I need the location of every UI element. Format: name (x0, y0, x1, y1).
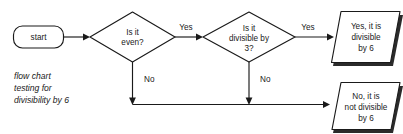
edge-even-yes-to-div3 (175, 34, 203, 41)
node-decision-even-line2: even? (121, 38, 144, 47)
edge-label-div3-yes: Yes (301, 23, 314, 32)
node-result-no-line3: by 6 (358, 114, 374, 123)
node-decision-div3-line2: divisible by (229, 34, 270, 43)
node-result-no-line1: No, it is (352, 92, 379, 101)
edge-div3-yes-to-result-yes (295, 34, 334, 41)
node-decision-divisible-by-3[interactable]: Is it divisible by 3? (203, 12, 295, 62)
node-start[interactable]: start (14, 26, 64, 48)
caption-line-1: flow chart (14, 71, 51, 81)
flowchart-diagram: start Is it even? Is it divisible by 3? … (0, 0, 403, 133)
edge-label-div3-no: No (260, 75, 271, 84)
node-result-no[interactable]: No, it is not divisible by 6 (332, 83, 403, 134)
caption-line-2: testing for (14, 83, 53, 93)
edge-merge-to-result-no (133, 101, 331, 108)
node-result-yes[interactable]: Yes, it is divisible by 6 (332, 12, 403, 67)
caption-line-3: divisibility by 6 (14, 95, 69, 105)
node-result-yes-line3: by 6 (358, 44, 374, 53)
edge-label-even-no: No (144, 75, 155, 84)
diagram-caption: flow chart testing for divisibility by 6 (14, 71, 69, 105)
node-start-label: start (31, 33, 48, 42)
node-decision-even[interactable]: Is it even? (90, 12, 175, 62)
edge-div3-no-down (246, 62, 253, 105)
node-decision-even-line1: Is it (126, 28, 139, 37)
edge-even-no-down (129, 62, 136, 105)
node-decision-div3-line3: 3? (244, 44, 254, 53)
node-result-yes-line1: Yes, it is (351, 22, 381, 31)
node-result-yes-line2: divisible (351, 33, 381, 42)
node-decision-div3-line1: Is it (243, 24, 256, 33)
node-result-no-line2: not divisible (345, 103, 388, 112)
edge-label-even-yes: Yes (179, 23, 192, 32)
edge-start-to-even (64, 34, 90, 41)
flowchart-canvas: start Is it even? Is it divisible by 3? … (0, 0, 403, 133)
